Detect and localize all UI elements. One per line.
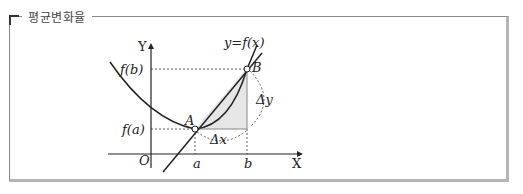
y-tick-fb: f(b)	[119, 62, 143, 77]
point-b-label: B	[251, 60, 262, 75]
average-rate-of-change-diagram: Y X O y=f(x) A B a b f(a) f(b) Δx Δy	[0, 0, 523, 194]
point-b	[244, 66, 250, 72]
tick-b-label: b	[244, 156, 252, 171]
x-axis-label: X	[292, 156, 302, 171]
origin-label: O	[139, 153, 150, 168]
curve-label: y=f(x)	[223, 35, 265, 50]
y-axis-arrow-icon	[148, 43, 154, 49]
shaded-triangle	[195, 68, 247, 129]
point-a-label: A	[184, 113, 194, 128]
y-tick-fa: f(a)	[121, 122, 145, 137]
tick-a-label: a	[193, 156, 201, 171]
delta-y-label: Δy	[255, 92, 273, 107]
delta-x-label: Δx	[209, 132, 227, 147]
y-axis-label: Y	[137, 39, 147, 54]
